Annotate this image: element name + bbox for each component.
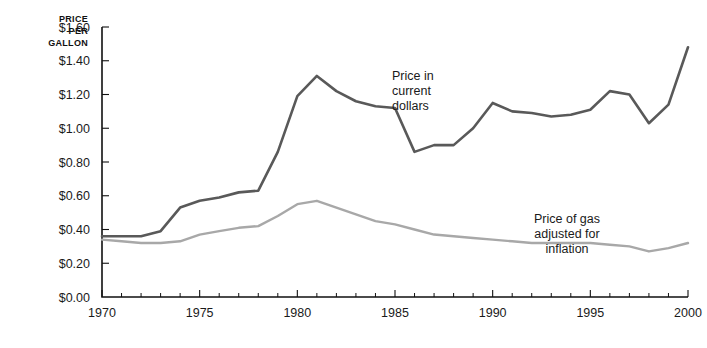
annotation-current-dollars-line-3: dollars — [392, 99, 429, 113]
y-tick-label: $1.60 — [59, 21, 90, 35]
x-axis-tick-marks — [102, 290, 688, 297]
annotation-current-dollars-line-2: current — [392, 84, 431, 98]
y-tick-label: $0.00 — [59, 291, 90, 305]
gas-price-line-chart: PRICE PER GALLON $0.00$0.20$0.40$0.60$0.… — [0, 0, 707, 348]
x-tick-label: 2000 — [674, 306, 702, 320]
y-tick-label: $0.80 — [59, 156, 90, 170]
annotation-adjusted-inflation-line-3: inflation — [545, 242, 588, 256]
annotation-adjusted-inflation: Price of gasadjusted forinflation — [534, 212, 600, 256]
chart-canvas: PRICE PER GALLON $0.00$0.20$0.40$0.60$0.… — [0, 0, 707, 348]
y-tick-label: $1.00 — [59, 122, 90, 136]
x-axis-tick-labels: 1970197519801985199019952000 — [88, 306, 702, 320]
annotation-adjusted-inflation-line-1: Price of gas — [534, 212, 600, 226]
y-tick-label: $0.40 — [59, 223, 90, 237]
x-tick-label: 1990 — [479, 306, 507, 320]
annotation-current-dollars: Price incurrentdollars — [392, 69, 434, 113]
x-tick-label: 1980 — [283, 306, 311, 320]
y-tick-label: $0.20 — [59, 257, 90, 271]
chart-annotations: Price incurrentdollarsPrice of gasadjust… — [392, 69, 600, 256]
x-tick-label: 1970 — [88, 306, 116, 320]
x-tick-label: 1995 — [576, 306, 604, 320]
y-axis-tick-labels: $0.00$0.20$0.40$0.60$0.80$1.00$1.20$1.40… — [59, 21, 90, 305]
annotation-current-dollars-line-1: Price in — [392, 69, 434, 83]
y-tick-label: $1.40 — [59, 54, 90, 68]
y-axis-title-line-3: GALLON — [48, 38, 88, 48]
x-tick-label: 1985 — [381, 306, 409, 320]
x-tick-label: 1975 — [186, 306, 214, 320]
y-tick-label: $1.20 — [59, 88, 90, 102]
chart-axes — [102, 27, 688, 297]
annotation-adjusted-inflation-line-2: adjusted for — [534, 227, 599, 241]
y-axis-tick-marks — [102, 27, 109, 263]
y-tick-label: $0.60 — [59, 189, 90, 203]
series-line-adjusted-inflation — [102, 201, 688, 252]
